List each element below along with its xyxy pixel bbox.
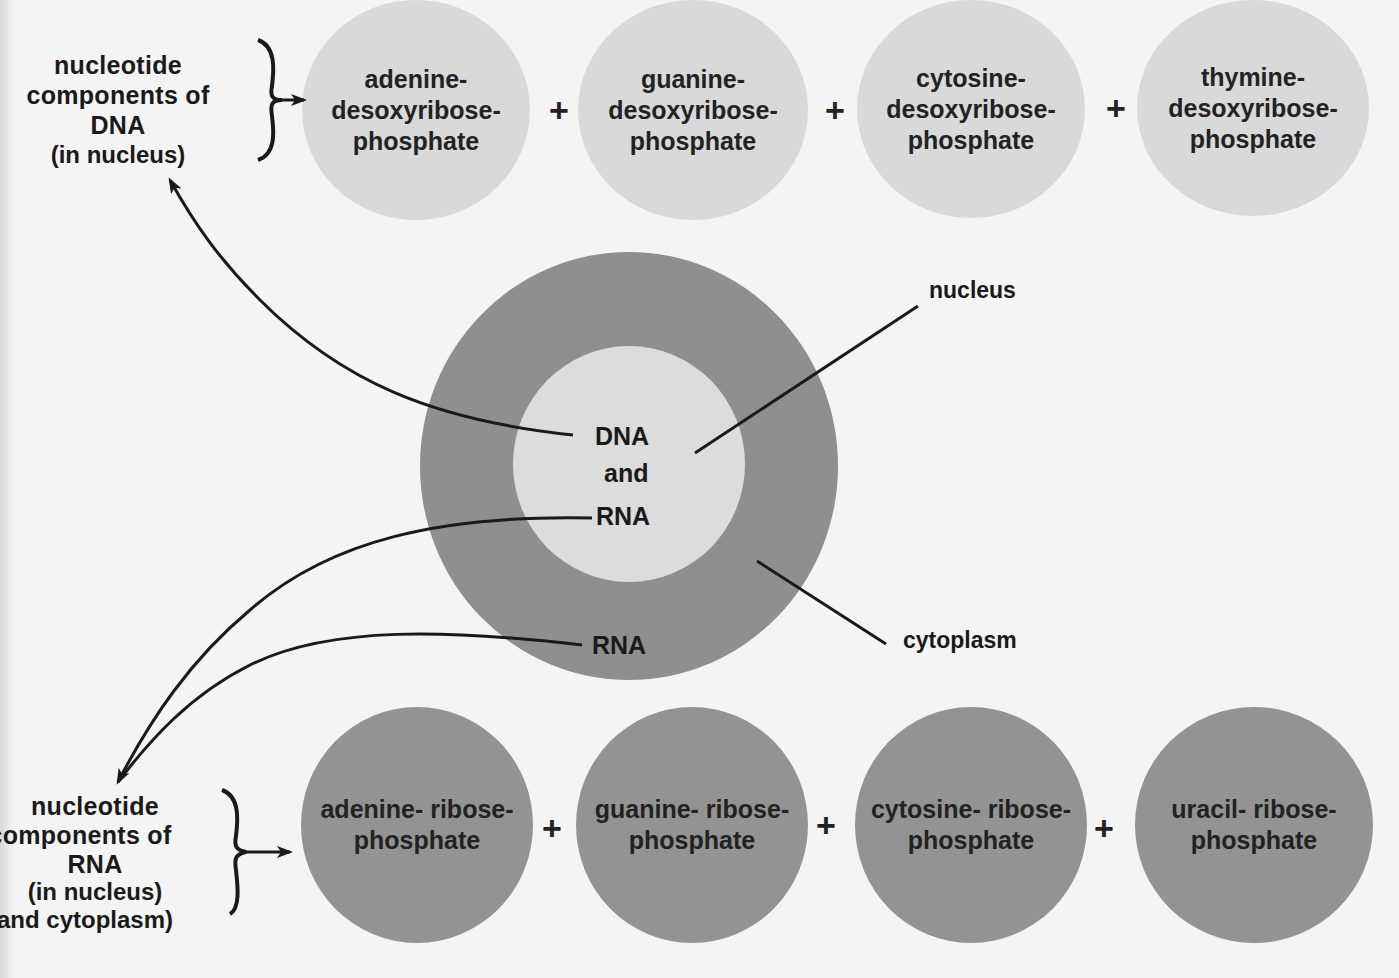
rna-cytoplasm-curve-arrow: [118, 634, 582, 782]
dna-curve-arrow: [170, 180, 573, 435]
rna-nucleus-curve-arrow: [118, 518, 592, 782]
nucleotide-diagram: nucleotide components of DNA (in nucleus…: [0, 0, 1399, 978]
connector-layer: [0, 0, 1399, 978]
rna-brace: [222, 790, 246, 914]
dna-brace: [258, 40, 282, 160]
nucleus-callout-line: [695, 306, 918, 453]
cytoplasm-callout-line: [757, 561, 886, 644]
